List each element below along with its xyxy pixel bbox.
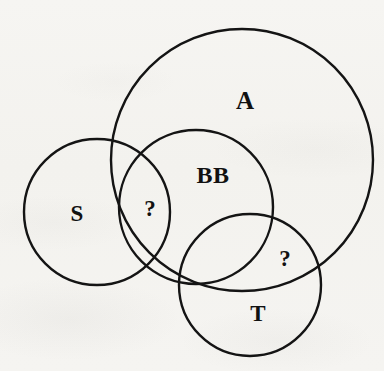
set-label-S: S: [71, 202, 84, 225]
set-circle-A: [111, 29, 373, 291]
venn-diagram-figure: A S BB T ? ?: [0, 0, 384, 371]
set-label-T: T: [250, 302, 265, 325]
set-label-BB: BB: [196, 163, 229, 187]
question-mark-region-a-t: ?: [279, 247, 291, 270]
set-label-A: A: [236, 88, 254, 113]
set-circle-BB: [119, 130, 273, 284]
question-mark-region-s-bb: ?: [144, 197, 156, 220]
venn-circles-canvas: [0, 0, 384, 371]
